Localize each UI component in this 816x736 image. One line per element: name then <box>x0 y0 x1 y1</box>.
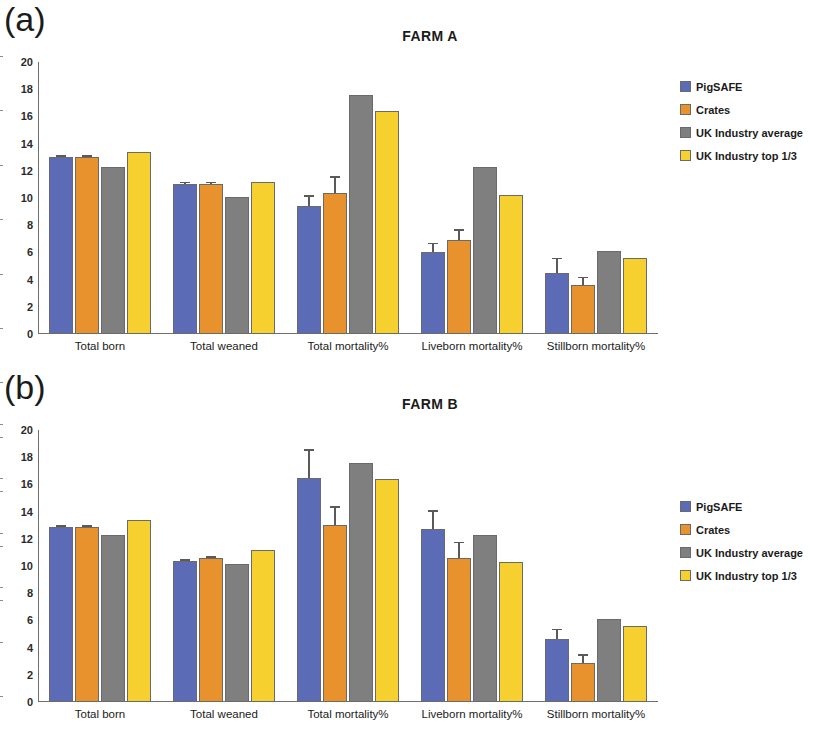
x-axis-category-label: Total born <box>38 340 162 352</box>
bar-slot <box>127 430 151 702</box>
bar <box>49 527 73 702</box>
bar-slot <box>49 62 73 334</box>
bar-slot <box>251 62 275 334</box>
y-axis-tick-label: 20 <box>3 56 33 68</box>
bar <box>545 639 569 702</box>
bar <box>571 663 595 702</box>
y-axis-tick-mark <box>0 533 3 534</box>
y-axis-tick-mark <box>0 642 3 643</box>
bar-slot <box>499 430 523 702</box>
bar <box>127 152 151 334</box>
legend-swatch-icon <box>680 570 691 581</box>
legend-item-label: UK Industry average <box>696 127 803 139</box>
bar-slot <box>597 430 621 702</box>
bar-slot <box>323 62 347 334</box>
bar <box>173 184 197 334</box>
bar-slot <box>101 430 125 702</box>
legend-item: PigSAFE <box>680 500 816 513</box>
y-axis-tick-label: 2 <box>3 669 33 681</box>
legend-item-label: Crates <box>696 524 730 536</box>
bar-slot <box>421 62 445 334</box>
bar-slot <box>447 62 471 334</box>
bar-groups-farm-a <box>38 62 658 334</box>
bar <box>75 157 99 334</box>
x-axis-category-label: Total weaned <box>162 340 286 352</box>
bar-slot <box>127 62 151 334</box>
legend-item: Crates <box>680 103 816 116</box>
bar-slot <box>101 62 125 334</box>
legend-item: UK Industry top 1/3 <box>680 149 816 162</box>
panel-farm-a: (a) FARM A 02468101214161820 Total bornT… <box>0 0 816 368</box>
plot-area-farm-b: 02468101214161820 <box>38 430 658 702</box>
y-axis-tick-label: 6 <box>3 246 33 258</box>
y-axis-tick-label: 4 <box>3 642 33 654</box>
bar-slot <box>571 62 595 334</box>
y-axis-tick-label: 14 <box>3 506 33 518</box>
y-axis-tick-label: 8 <box>3 219 33 231</box>
y-axis-tick-label: 18 <box>3 83 33 95</box>
bar-group <box>38 62 162 334</box>
legend-item-label: UK Industry top 1/3 <box>696 570 797 582</box>
legend-swatch-icon <box>680 127 691 138</box>
bar <box>199 558 223 702</box>
legend-item: UK Industry top 1/3 <box>680 569 816 582</box>
y-axis-tick-mark <box>0 587 3 588</box>
bar-slot <box>473 430 497 702</box>
bar <box>447 558 471 702</box>
legend-item: Crates <box>680 523 816 536</box>
bar-slot <box>49 430 73 702</box>
bar-slot <box>251 430 275 702</box>
bar-slot <box>75 430 99 702</box>
bar-slot <box>421 430 445 702</box>
legend-item-label: UK Industry average <box>696 547 803 559</box>
bar-slot <box>323 430 347 702</box>
y-axis-tick-mark <box>0 328 3 329</box>
x-axis-category-label: Stillborn mortality% <box>534 340 658 352</box>
legend-farm-a: PigSAFECratesUK Industry averageUK Indus… <box>680 80 816 172</box>
y-axis-tick-mark <box>0 56 3 57</box>
y-axis-tick-mark <box>0 219 3 220</box>
bar <box>101 535 125 702</box>
bar <box>297 478 321 702</box>
bar <box>323 193 347 334</box>
bar-group <box>410 62 534 334</box>
x-axis-labels-farm-a: Total bornTotal weanedTotal mortality%Li… <box>38 340 658 352</box>
bar-group <box>534 430 658 702</box>
bar <box>199 184 223 334</box>
bar <box>499 562 523 702</box>
bar-slot <box>297 430 321 702</box>
x-axis-category-label: Total weaned <box>162 708 286 720</box>
bar-slot <box>499 62 523 334</box>
bar <box>225 197 249 334</box>
bar-slot <box>623 430 647 702</box>
y-axis-tick-label: 0 <box>3 696 33 708</box>
bar-slot <box>297 62 321 334</box>
y-axis-tick-label: 10 <box>3 192 33 204</box>
legend-item: UK Industry average <box>680 126 816 139</box>
y-axis-tick-label: 12 <box>3 165 33 177</box>
bar-slot <box>571 430 595 702</box>
bar-group <box>286 62 410 334</box>
bar <box>323 525 347 702</box>
bar <box>545 273 569 334</box>
bar-slot <box>375 62 399 334</box>
legend-item: UK Industry average <box>680 546 816 559</box>
bar-slot <box>375 430 399 702</box>
bar <box>251 182 275 334</box>
x-axis-category-label: Total born <box>38 708 162 720</box>
y-axis-tick-label: 8 <box>3 587 33 599</box>
bar-group <box>286 430 410 702</box>
y-axis-tick-label: 12 <box>3 533 33 545</box>
legend-swatch-icon <box>680 104 691 115</box>
bar <box>623 258 647 334</box>
bar <box>127 520 151 702</box>
x-axis-category-label: Total mortality% <box>286 340 410 352</box>
y-axis-tick-mark <box>0 478 3 479</box>
bar-slot <box>473 62 497 334</box>
legend-swatch-icon <box>680 547 691 558</box>
y-axis-tick-mark <box>0 424 3 425</box>
legend-item-label: Crates <box>696 104 730 116</box>
chart-title-farm-b: FARM B <box>300 396 560 412</box>
bar <box>297 206 321 334</box>
legend-item-label: UK Industry top 1/3 <box>696 150 797 162</box>
